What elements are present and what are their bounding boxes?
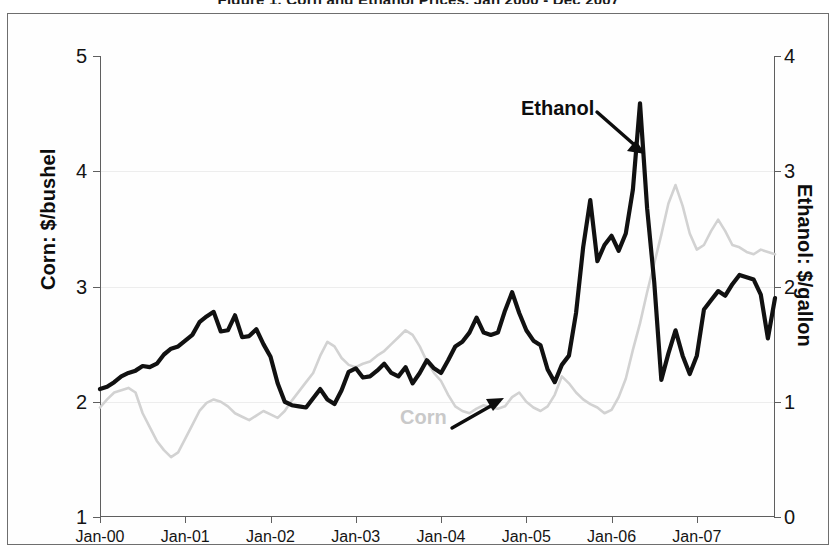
- right-axis-tick: [774, 517, 781, 518]
- right-axis-tick: [774, 287, 781, 288]
- x-axis-tick: [271, 516, 272, 523]
- right-axis-tick: [774, 56, 781, 57]
- x-axis-tick: [356, 516, 357, 523]
- left-axis-tick: [93, 56, 100, 57]
- figure-frame: 12345 01234 Jan-00Jan-01Jan-02Jan-03Jan-…: [7, 13, 829, 545]
- left-axis-title: Corn: $/bushel: [37, 149, 60, 290]
- left-axis-tick-label: 2: [76, 392, 87, 412]
- left-axis-tick: [93, 171, 100, 172]
- x-axis-tick-label: Jan-04: [417, 528, 466, 546]
- x-axis-tick-label: Jan-05: [502, 528, 551, 546]
- left-axis-tick-label: 4: [76, 161, 87, 181]
- x-axis-tick-label: Jan-07: [672, 528, 721, 546]
- right-axis-tick-label: 3: [784, 161, 795, 181]
- corn-annotation-arrow: [452, 398, 504, 428]
- plot-area: 12345 01234 Jan-00Jan-01Jan-02Jan-03Jan-…: [100, 56, 775, 517]
- x-axis-tick: [185, 516, 186, 523]
- right-axis-tick: [774, 171, 781, 172]
- x-axis-tick-label: Jan-02: [246, 528, 295, 546]
- left-axis-tick-label: 3: [76, 277, 87, 297]
- right-axis-tick-label: 0: [784, 507, 795, 527]
- x-axis-tick-label: Jan-03: [331, 528, 380, 546]
- x-axis-tick: [441, 516, 442, 523]
- x-axis-tick: [612, 516, 613, 523]
- left-axis-tick: [93, 287, 100, 288]
- x-axis-tick-label: Jan-01: [161, 528, 210, 546]
- right-axis-title: Ethanol: $/gallon: [793, 184, 816, 347]
- figure-title: Figure 1. Corn and Ethanol Prices, Jan 2…: [0, 0, 837, 4]
- x-axis-tick-label: Jan-06: [587, 528, 636, 546]
- left-axis-tick: [93, 402, 100, 403]
- right-axis-tick-label: 4: [784, 46, 795, 66]
- x-axis-tick: [526, 516, 527, 523]
- series-lines: [100, 56, 775, 517]
- x-axis-tick: [697, 516, 698, 523]
- figure-container: Figure 1. Corn and Ethanol Prices, Jan 2…: [0, 0, 837, 551]
- ethanol-line: [100, 103, 775, 407]
- left-axis-tick-label: 1: [76, 507, 87, 527]
- x-axis-tick-label: Jan-00: [76, 528, 125, 546]
- left-axis-tick: [93, 517, 100, 518]
- right-axis-tick-label: 1: [784, 392, 795, 412]
- corn-series-label: Corn: [400, 406, 447, 429]
- left-axis-tick-label: 5: [76, 46, 87, 66]
- x-axis-tick: [100, 516, 101, 523]
- ethanol-series-label: Ethanol: [521, 97, 594, 120]
- right-axis-tick: [774, 402, 781, 403]
